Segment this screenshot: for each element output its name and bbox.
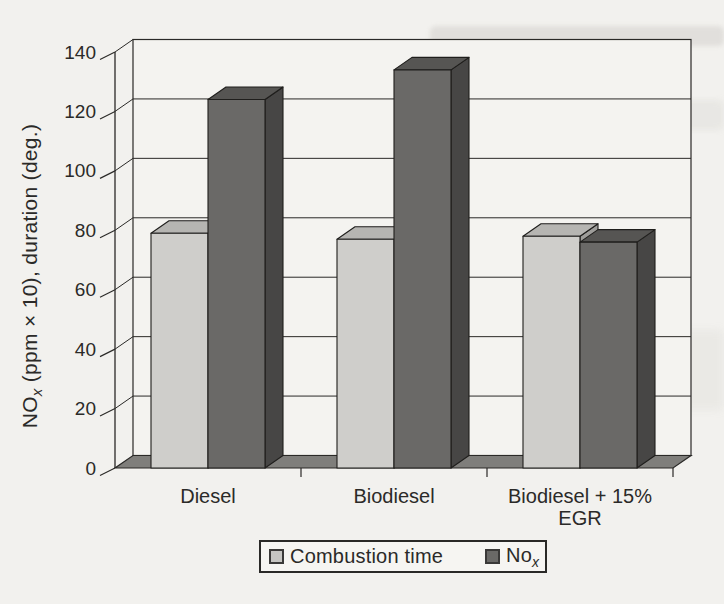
legend-swatch-nox xyxy=(485,549,500,564)
figure: 020406080100120140DieselBiodieselBiodies… xyxy=(0,0,724,604)
bar-front-face xyxy=(208,100,265,468)
gridline-connector-140 xyxy=(115,40,133,53)
legend-label-combustion-time: Combustion time xyxy=(290,545,443,568)
y-axis-title-text: NO xyxy=(18,396,41,428)
gridline-connector-40 xyxy=(115,337,133,350)
x-category-label-biodiesel: Biodiesel xyxy=(353,485,434,507)
y-axis-title-suffix: (ppm × 10), duration (deg.) xyxy=(18,124,41,389)
y-axis-tick-100 xyxy=(100,171,115,179)
y-tick-label-100: 100 xyxy=(64,160,96,181)
x-category-label-diesel: Diesel xyxy=(180,485,236,507)
gridline-connector-100 xyxy=(115,158,133,171)
gridline-connector-60 xyxy=(115,277,133,290)
bar-side-face xyxy=(637,230,655,468)
y-axis-tick-20 xyxy=(100,409,115,417)
gridline-connector-80 xyxy=(115,218,133,231)
y-tick-label-60: 60 xyxy=(75,279,96,300)
bar-front-face xyxy=(523,236,580,468)
y-axis-tick-120 xyxy=(100,111,115,119)
y-tick-label-80: 80 xyxy=(75,220,96,241)
chart-canvas: 020406080100120140DieselBiodieselBiodies… xyxy=(0,0,724,604)
bar-nox-diesel xyxy=(208,87,283,468)
bar-side-face xyxy=(451,57,469,468)
y-axis-title: NOx (ppm × 10), duration (deg.) xyxy=(16,56,44,496)
gridline-connector-20 xyxy=(115,396,133,409)
bar-nox-biodiesel-15-egr xyxy=(580,230,655,468)
bar-front-face xyxy=(337,239,394,468)
y-axis-tick-80 xyxy=(100,230,115,238)
y-tick-label-20: 20 xyxy=(75,398,96,419)
bar-front-face xyxy=(394,70,451,468)
y-tick-label-120: 120 xyxy=(64,101,96,122)
y-tick-label-140: 140 xyxy=(64,42,96,63)
bar-front-face xyxy=(151,233,208,468)
legend-swatch-combustion-time xyxy=(269,549,284,564)
y-axis-tick-60 xyxy=(100,290,115,298)
y-axis-title-subscript: x xyxy=(28,388,45,396)
gridline-connector-120 xyxy=(115,99,133,112)
legend: Combustion time Nox xyxy=(259,540,547,573)
bar-front-face xyxy=(580,242,637,468)
y-tick-label-0: 0 xyxy=(85,458,96,479)
bar-nox-biodiesel xyxy=(394,57,469,468)
bar-side-face xyxy=(265,87,283,468)
legend-label-nox: Nox xyxy=(506,544,539,570)
y-tick-label-40: 40 xyxy=(75,339,96,360)
y-axis-tick-0 xyxy=(100,468,115,476)
x-category-label-biodiesel-15-egr: Biodiesel + 15%EGR xyxy=(508,485,652,529)
y-axis-tick-40 xyxy=(100,349,115,357)
y-axis-tick-140 xyxy=(100,52,115,60)
